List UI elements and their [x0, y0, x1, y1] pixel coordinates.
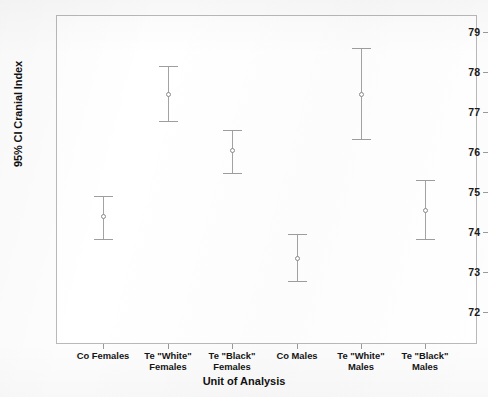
errorbar [297, 234, 298, 282]
errorbar [168, 66, 169, 122]
x-tick-label: Te "Black" Males [382, 350, 468, 372]
y-tick-label: 78 [468, 65, 480, 79]
y-tick-label: 77 [468, 105, 480, 119]
y-tick-mark [483, 152, 488, 153]
errorbar-cap-upper [159, 66, 178, 67]
errorbar-cap-upper [352, 48, 371, 49]
mean-marker [359, 92, 364, 97]
y-tick-label: 72 [468, 305, 480, 319]
x-tick-mark [103, 344, 104, 349]
x-tick-mark [361, 344, 362, 349]
y-tick-label: 79 [468, 25, 480, 39]
y-tick-label: 76 [468, 145, 480, 159]
errorbar [232, 130, 233, 174]
mean-marker [230, 148, 235, 153]
y-tick-mark [483, 232, 488, 233]
x-tick-mark [297, 344, 298, 349]
y-tick-mark [483, 192, 488, 193]
errorbar-cap-upper [416, 180, 435, 181]
x-tick-mark [232, 344, 233, 349]
y-tick-mark [483, 312, 488, 313]
mean-marker [295, 256, 300, 261]
errorbar-cap-upper [288, 234, 307, 235]
mean-marker [166, 92, 171, 97]
plot-area [56, 15, 477, 344]
errorbar-cap-lower [94, 239, 113, 240]
errorbar [103, 196, 104, 240]
y-tick-label: 75 [468, 185, 480, 199]
errorbar-cap-lower [159, 121, 178, 122]
x-axis-title: Unit of Analysis [0, 375, 488, 387]
x-tick-mark [425, 344, 426, 349]
errorbar-cap-lower [223, 173, 242, 174]
errorbar [361, 48, 362, 140]
chart-page: 95% CI Cranial Index 79 78 77 76 75 74 7… [0, 0, 488, 397]
errorbar-cap-lower [288, 281, 307, 282]
y-tick-label: 74 [468, 225, 480, 239]
mean-marker [423, 208, 428, 213]
y-tick-mark [483, 32, 488, 33]
errorbar-cap-upper [223, 130, 242, 131]
y-tick-mark [483, 112, 488, 113]
mean-marker [101, 214, 106, 219]
y-tick-mark [483, 72, 488, 73]
errorbar-cap-lower [352, 139, 371, 140]
errorbar-cap-lower [416, 239, 435, 240]
y-tick-label: 73 [468, 265, 480, 279]
errorbar [425, 180, 426, 240]
x-tick-mark [168, 344, 169, 349]
y-tick-mark [483, 272, 488, 273]
errorbar-cap-upper [94, 196, 113, 197]
y-axis-title: 95% CI Cranial Index [12, 14, 24, 214]
